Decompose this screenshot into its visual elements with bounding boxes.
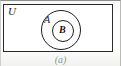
venn-diagram-figure: U A B (a) [0, 0, 121, 66]
universal-set-label: U [8, 6, 16, 17]
set-a-label: A [44, 15, 50, 25]
figure-caption: (a) [0, 55, 121, 65]
set-b-label: B [59, 25, 66, 35]
